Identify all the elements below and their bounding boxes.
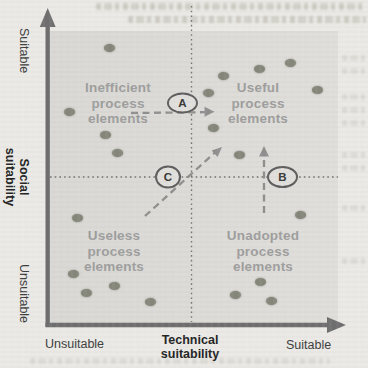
y-axis-cap-unsuitable: Unsuitable [17,264,31,326]
scanned-figure-page: A C B Inefficient process elements Usefu… [0,0,368,368]
data-point [100,131,111,139]
data-point [285,59,296,67]
quadrant-label-unadopted: Unadopted process elements [213,228,313,275]
data-point [145,298,156,306]
data-point [295,211,306,219]
quadrant-label-useful: Useful process elements [208,80,308,127]
arrow-c-shaft [145,153,215,217]
badge-c-label: C [164,171,172,183]
y-axis-title: Social suitability [3,147,31,207]
x-axis-cap-unsuitable: Unsuitable [45,337,104,351]
data-point [266,297,277,305]
data-point [230,291,241,299]
x-axis-title: Technical suitability [155,333,225,361]
data-point [254,65,265,73]
y-axis-cap-suitable: Suitable [17,28,31,78]
data-point [112,149,123,157]
diagram-overlay: A C B [0,0,368,368]
x-axis-arrowhead-icon [327,317,346,333]
data-point [81,289,92,297]
badge-a-label: A [178,97,186,109]
y-axis-arrowhead-icon [40,8,56,27]
quadrant-label-inefficient: Inefficient process elements [68,80,168,127]
data-point [104,44,115,52]
x-axis-cap-suitable: Suitable [286,338,331,352]
data-point [218,72,229,80]
badge-b-label: B [278,171,286,183]
data-point [255,278,266,286]
data-point [234,151,245,159]
quadrant-label-useless: Useless process elements [64,228,164,275]
data-point [109,282,120,290]
data-point [312,86,323,94]
arrow-b-head-icon [259,146,269,157]
arrow-c-head-icon [212,147,222,157]
data-point [72,214,83,222]
